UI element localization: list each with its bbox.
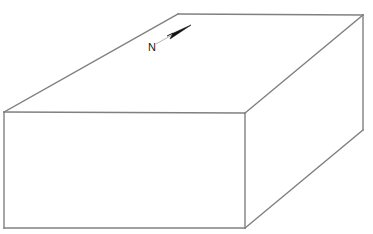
edge-top-front-left (4, 112, 245, 113)
block-diagram-canvas: N (0, 0, 373, 234)
block-face-front (4, 112, 245, 228)
block-diagram-figure: N (0, 0, 373, 234)
edge-top-back-right (178, 14, 363, 15)
north-label: N (148, 41, 156, 53)
